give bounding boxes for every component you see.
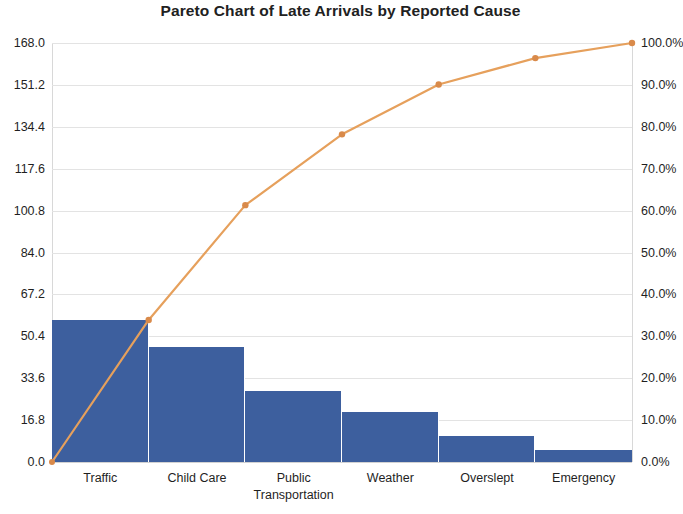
- right-axis-tick: 30.0%: [641, 330, 676, 343]
- x-axis-category-label-line: Overslept: [439, 470, 536, 487]
- line-marker: [532, 55, 538, 61]
- line-marker: [339, 131, 345, 137]
- x-axis-category-label: PublicTransportation: [245, 470, 342, 504]
- x-axis-category-label: Weather: [342, 470, 439, 504]
- right-axis-tick: 40.0%: [641, 288, 676, 301]
- line-marker: [242, 202, 248, 208]
- left-axis-tick: 16.8: [21, 414, 45, 427]
- x-axis-category-label-line: Transportation: [245, 487, 342, 504]
- x-axis-category-labels: TrafficChild CarePublicTransportationWea…: [52, 470, 632, 504]
- left-axis-tick: 84.0: [21, 246, 45, 259]
- x-axis-category-label: Child Care: [149, 470, 246, 504]
- x-axis-category-label: Overslept: [439, 470, 536, 504]
- line-marker: [145, 317, 151, 323]
- line-marker: [49, 459, 55, 465]
- left-axis-tick: 117.6: [15, 162, 45, 175]
- x-axis-category-label: Traffic: [52, 470, 149, 504]
- cumulative-line-series: [52, 43, 632, 462]
- x-axis-category-label-line: Public: [245, 470, 342, 487]
- right-axis-tick: 0.0%: [641, 456, 670, 469]
- left-axis-tick: 67.2: [21, 288, 45, 301]
- right-axis-tick: 80.0%: [641, 121, 676, 134]
- right-axis-tick: 60.0%: [641, 204, 676, 217]
- right-axis-tick: 20.0%: [641, 372, 676, 385]
- right-axis-tick: 100.0%: [641, 37, 683, 50]
- chart-title: Pareto Chart of Late Arrivals by Reporte…: [0, 2, 681, 20]
- x-axis-category-label: Emergency: [535, 470, 632, 504]
- left-axis-tick: 151.2: [14, 79, 45, 92]
- right-axis-tick: 90.0%: [641, 79, 676, 92]
- right-axis-tick: 70.0%: [641, 162, 676, 175]
- left-axis-tick: 0.0: [28, 456, 45, 469]
- left-axis-tick: 100.8: [14, 204, 45, 217]
- line-marker: [629, 40, 635, 46]
- line-marker: [435, 81, 441, 87]
- left-axis-tick: 50.4: [21, 330, 45, 343]
- plot-area: [52, 43, 632, 462]
- cumulative-line: [52, 43, 632, 462]
- x-axis-category-label-line: Child Care: [149, 470, 246, 487]
- right-axis-spine: [632, 43, 633, 462]
- right-axis-tick: 10.0%: [641, 414, 676, 427]
- x-axis-category-label-line: Weather: [342, 470, 439, 487]
- x-axis-category-label-line: Traffic: [52, 470, 149, 487]
- right-axis-tick: 50.0%: [641, 246, 676, 259]
- x-axis-category-label-line: Emergency: [535, 470, 632, 487]
- left-axis-tick: 134.4: [14, 121, 45, 134]
- left-axis-tick: 168.0: [14, 37, 45, 50]
- gridline: [52, 462, 632, 463]
- left-axis-tick: 33.6: [21, 372, 45, 385]
